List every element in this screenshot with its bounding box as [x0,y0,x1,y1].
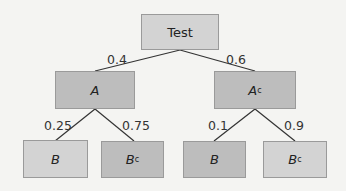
node-bc-2: Bc [263,141,327,178]
prob-b-given-ac: 0.1 [208,118,228,133]
prob-bc-given-a: 0.75 [122,118,150,133]
node-bc-2-label: B [288,152,297,167]
prob-a: 0.4 [107,52,127,67]
prob-ac: 0.6 [226,52,246,67]
node-a-complement: Ac [214,71,296,109]
node-bc-1-label: B [126,152,135,167]
node-b-2: B [183,141,246,178]
node-ac-label: A [248,83,257,98]
node-b-1-label: B [51,152,60,167]
complement-sup: c [135,155,139,164]
root-node: Test [141,14,219,50]
root-label: Test [167,25,193,40]
node-bc-1: Bc [101,141,164,178]
complement-sup: c [257,86,261,95]
node-b-2-label: B [210,152,219,167]
prob-bc-given-ac: 0.9 [284,118,304,133]
complement-sup: c [297,155,301,164]
prob-b-given-a: 0.25 [44,118,72,133]
node-a: A [55,71,135,109]
node-a-label: A [91,83,100,98]
node-b-1: B [23,140,88,178]
